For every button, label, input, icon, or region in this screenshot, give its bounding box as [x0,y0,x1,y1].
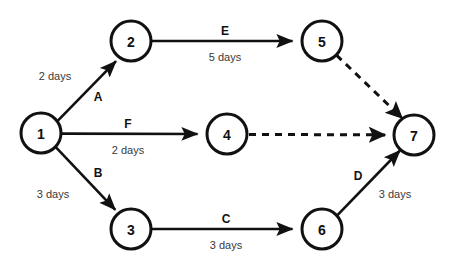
network-diagram: A 2 days B 3 days F 2 days E 5 days C 3 … [0,0,453,270]
edge-D-line [337,151,400,216]
edge-dummy-5-7-line [337,55,403,118]
node-3-label: 3 [127,222,135,238]
node-5-label: 5 [318,34,326,50]
node-3[interactable]: 3 [111,209,151,249]
node-2-label: 2 [127,34,135,50]
edge-label-A: A [94,90,103,104]
node-2[interactable]: 2 [111,21,151,61]
edge-duration-D: 3 days [379,188,412,200]
edge-label-C: C [222,212,231,226]
node-5[interactable]: 5 [302,21,342,61]
network-diagram-canvas: A 2 days B 3 days F 2 days E 5 days C 3 … [0,0,453,270]
node-1[interactable]: 1 [21,113,61,153]
edge-duration-E: 5 days [209,51,242,63]
node-4-label: 4 [223,127,231,143]
node-1-label: 1 [37,126,45,142]
edge-dummy-4-7-line [249,134,385,135]
edge-label-E: E [221,24,229,38]
node-6-label: 6 [318,222,326,238]
node-7[interactable]: 7 [394,115,434,155]
edge-duration-A: 2 days [39,70,72,82]
edge-label-B: B [94,166,103,180]
edge-label-F: F [124,117,131,131]
edge-duration-F: 2 days [112,144,145,156]
edge-duration-C: 3 days [210,239,243,251]
node-4[interactable]: 4 [207,114,247,154]
node-7-label: 7 [410,128,418,144]
node-6[interactable]: 6 [302,209,342,249]
edge-B-line [56,147,115,209]
edge-duration-B: 3 days [37,188,70,200]
edge-label-D: D [354,169,363,183]
